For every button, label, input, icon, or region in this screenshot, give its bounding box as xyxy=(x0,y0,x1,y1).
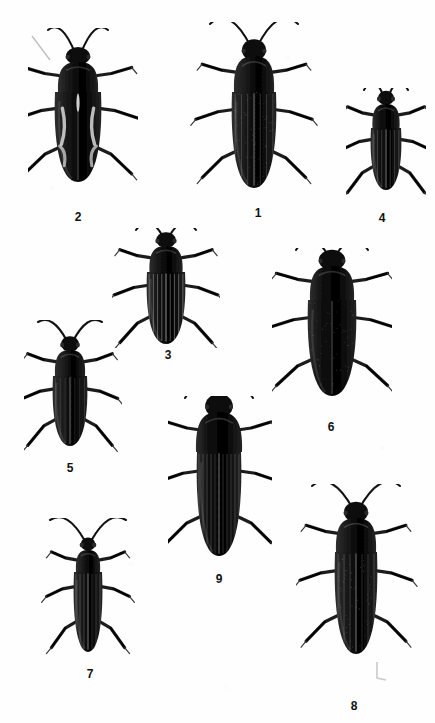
specimen-fig-3 xyxy=(112,228,220,348)
figure-label-7: 7 xyxy=(80,668,100,680)
figure-plate: 2 1 4 3 6 5 9 7 8 xyxy=(0,0,435,723)
specimen-fig-4 xyxy=(346,88,426,204)
specimen-fig-6 xyxy=(272,248,392,420)
specimen-fig-1 xyxy=(190,22,318,204)
figure-label-9: 9 xyxy=(209,573,229,585)
figure-label-3: 3 xyxy=(158,349,178,361)
figure-label-5: 5 xyxy=(60,462,80,474)
specimen-fig-2 xyxy=(28,28,138,208)
specimen-fig-7 xyxy=(34,518,142,660)
figure-label-4: 4 xyxy=(372,212,392,224)
specimen-fig-9 xyxy=(168,396,272,570)
figure-label-8: 8 xyxy=(344,700,364,712)
figure-label-6: 6 xyxy=(321,421,341,433)
specimen-fig-5 xyxy=(24,320,122,456)
figure-label-1: 1 xyxy=(248,207,268,219)
figure-label-2: 2 xyxy=(68,211,88,223)
specimen-fig-8 xyxy=(296,484,420,680)
